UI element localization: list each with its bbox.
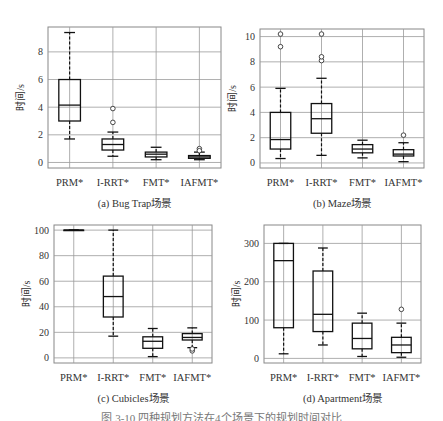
- y-tick-label: 40: [39, 301, 49, 312]
- x-tick-label: I-RRT*: [97, 372, 129, 383]
- outlier-point: [197, 148, 202, 153]
- x-tick-label: PRM*: [270, 372, 297, 383]
- outlier-point: [190, 347, 195, 352]
- y-tick-label: 8: [250, 56, 255, 67]
- outlier-point: [319, 32, 324, 37]
- subplot-title: (c) Cubicles场景: [97, 392, 168, 405]
- outlier-point: [278, 32, 283, 37]
- y-tick-label: 200: [244, 276, 259, 287]
- outlier-point: [111, 120, 116, 125]
- subplot-title: (b) Maze场景: [313, 197, 371, 210]
- y-tick-label: 2: [250, 132, 255, 143]
- x-tick-label: PRM*: [60, 372, 87, 383]
- plot-frame: [260, 29, 424, 168]
- y-tick-label: 80: [39, 250, 49, 261]
- plot-frame: [54, 225, 212, 363]
- y-tick-label: 4: [250, 107, 255, 118]
- outlier-point: [401, 133, 406, 138]
- y-tick-label: 100: [244, 315, 259, 326]
- x-tick-label: I-RRT*: [97, 177, 129, 188]
- subplot-title: (a) Bug Trap场景: [98, 197, 172, 210]
- y-tick-label: 100: [34, 225, 49, 236]
- x-tick-label: I-RRT*: [305, 177, 337, 188]
- x-tick-label: FMT*: [349, 372, 376, 383]
- x-tick-label: I-RRT*: [307, 372, 339, 383]
- subplot-cubicles: 020406080100PRM*I-RRT*FMT*IAFMT*时间/s(c) …: [20, 225, 212, 405]
- x-tick-label: IAFMT*: [385, 177, 423, 188]
- y-tick-label: 60: [39, 276, 49, 287]
- y-tick-label: 4: [38, 102, 43, 113]
- y-tick-label: 0: [44, 352, 49, 363]
- y-tick-label: 20: [39, 327, 49, 338]
- x-tick-label: FMT*: [139, 372, 166, 383]
- x-tick-label: FMT*: [143, 177, 170, 188]
- x-tick-label: IAFMT*: [382, 372, 420, 383]
- box-prm: [64, 230, 84, 231]
- outlier-point: [278, 44, 283, 49]
- box-plot-figure: 02468PRM*I-RRT*FMT*IAFMT*时间/s(a) Bug Tra…: [0, 0, 443, 421]
- y-tick-label: 10: [245, 31, 255, 42]
- y-axis-label: 时间/s: [230, 281, 242, 308]
- x-tick-label: IAFMT*: [180, 177, 218, 188]
- y-tick-label: 0: [254, 353, 259, 364]
- outlier-point: [111, 106, 116, 111]
- y-tick-label: 6: [38, 74, 43, 85]
- subplot-maze: 0246810PRM*I-RRT*FMT*IAFMT*时间/s(b) Maze场…: [226, 29, 424, 210]
- subplot-bug-trap: 02468PRM*I-RRT*FMT*IAFMT*时间/s(a) Bug Tra…: [14, 27, 221, 210]
- subplot-apartment: 0100200300PRM*I-RRT*FMT*IAFMT*时间/s(d) Ap…: [230, 225, 421, 405]
- y-axis-label: 时间/s: [14, 84, 26, 111]
- outlier-point: [319, 55, 324, 60]
- y-tick-label: 0: [38, 157, 43, 168]
- outlier-point: [399, 307, 404, 312]
- figure-caption: 图 3-10 四种规划方法在4个场景下的规划时间对比: [0, 410, 443, 421]
- y-axis-label: 时间/s: [20, 281, 32, 308]
- subplot-title: (d) Apartment场景: [303, 392, 382, 405]
- x-tick-label: PRM*: [267, 177, 294, 188]
- y-tick-label: 300: [244, 238, 259, 249]
- y-tick-label: 2: [38, 129, 43, 140]
- chart-canvas: 02468PRM*I-RRT*FMT*IAFMT*时间/s(a) Bug Tra…: [0, 0, 443, 421]
- x-tick-label: FMT*: [349, 177, 376, 188]
- y-tick-label: 0: [250, 157, 255, 168]
- y-tick-label: 8: [38, 46, 43, 57]
- x-tick-label: PRM*: [56, 177, 83, 188]
- x-tick-label: IAFMT*: [173, 372, 211, 383]
- y-tick-label: 6: [250, 82, 255, 93]
- plot-frame: [264, 225, 421, 363]
- y-axis-label: 时间/s: [226, 85, 238, 112]
- plot-frame: [48, 27, 221, 168]
